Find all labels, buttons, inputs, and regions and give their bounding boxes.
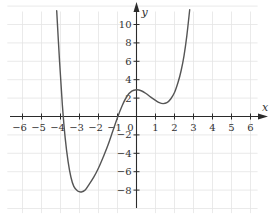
x-tick-label: −4	[50, 122, 65, 133]
y-tick-label: 10	[119, 19, 132, 30]
x-tick-label: −2	[88, 122, 103, 133]
origin-label: 0	[127, 122, 133, 133]
y-tick-label: 8	[125, 37, 131, 48]
x-tick-label: 4	[209, 122, 215, 133]
function-graph: −6−5−4−3−2−1123456 −8−6−4−2246810 0 x y	[0, 0, 272, 214]
x-axis-label: x	[262, 101, 269, 114]
x-tick-label: 5	[228, 122, 234, 133]
y-tick-label: 4	[125, 74, 131, 85]
x-tick-label: 6	[247, 122, 253, 133]
x-tick-label: 3	[190, 122, 196, 133]
y-tick-label: −8	[117, 185, 132, 196]
x-tick-label: 2	[171, 122, 177, 133]
function-curve	[57, 10, 190, 192]
y-tick-label: −4	[117, 148, 132, 159]
x-tick-label: 1	[152, 122, 158, 133]
y-tick-label: 6	[125, 56, 131, 67]
x-tick-label: −6	[12, 122, 27, 133]
y-axis-label: y	[141, 6, 149, 19]
x-axis-arrow-icon	[258, 114, 268, 120]
x-tick-label: −5	[31, 122, 46, 133]
y-tick-label: −6	[117, 166, 132, 177]
grid-lines	[7, 6, 257, 213]
y-axis-arrow-icon	[134, 2, 140, 12]
x-tick-label: −3	[69, 122, 84, 133]
